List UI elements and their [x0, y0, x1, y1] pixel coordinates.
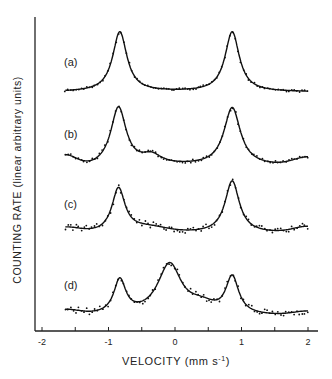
data-point	[139, 302, 141, 304]
data-point	[286, 91, 288, 93]
data-point	[157, 156, 159, 158]
data-point	[285, 231, 287, 233]
data-point	[121, 280, 123, 282]
data-point	[166, 159, 168, 161]
spectra-curves	[65, 32, 308, 314]
data-point	[214, 224, 216, 226]
data-point	[296, 90, 298, 92]
data-point	[307, 90, 309, 92]
data-point	[163, 87, 165, 89]
data-point	[128, 211, 130, 213]
data-point	[198, 160, 200, 162]
data-point	[227, 190, 229, 192]
data-point	[153, 87, 155, 89]
data-point	[152, 150, 154, 152]
data-point	[134, 301, 136, 303]
data-point	[256, 225, 258, 227]
data-point	[72, 156, 74, 158]
data-point	[221, 211, 223, 213]
data-point	[233, 275, 235, 277]
data-point	[131, 70, 133, 72]
data-point	[89, 313, 91, 315]
data-point	[174, 268, 176, 270]
data-point	[291, 226, 293, 228]
data-point	[256, 311, 258, 313]
data-point	[229, 35, 231, 37]
data-point	[101, 149, 103, 151]
data-point	[168, 226, 170, 228]
data-point	[131, 144, 133, 146]
data-point	[96, 310, 98, 312]
data-point	[267, 161, 269, 163]
data-point	[299, 225, 301, 227]
data-point	[304, 89, 306, 91]
data-point	[112, 291, 114, 293]
data-point	[245, 215, 247, 217]
spectrum-curve-d	[65, 263, 308, 314]
data-point	[154, 288, 156, 290]
data-point	[245, 73, 247, 75]
data-point	[83, 88, 85, 90]
data-point	[232, 32, 234, 34]
data-point	[291, 158, 293, 160]
spectrum-curve-b	[65, 107, 308, 163]
data-point	[123, 41, 125, 43]
data-point	[211, 154, 213, 156]
data-point	[203, 294, 205, 296]
data-point	[99, 82, 101, 84]
data-point	[222, 135, 224, 137]
data-point	[109, 130, 111, 132]
data-point	[139, 81, 141, 83]
data-point	[168, 263, 170, 265]
data-point	[230, 275, 232, 277]
data-point	[237, 285, 239, 287]
data-point	[112, 53, 114, 55]
data-point	[254, 226, 256, 228]
data-point	[304, 156, 306, 158]
data-point	[232, 179, 234, 181]
data-point	[307, 228, 309, 230]
data-point	[78, 89, 80, 91]
data-point	[153, 221, 155, 223]
data-point	[216, 147, 218, 149]
data-point	[259, 87, 261, 89]
data-point	[102, 308, 104, 310]
data-point	[86, 161, 88, 163]
data-point	[259, 313, 261, 315]
data-point	[248, 304, 250, 306]
data-point	[226, 281, 228, 283]
data-point	[142, 303, 144, 305]
data-point	[291, 89, 293, 91]
data-point	[182, 231, 184, 233]
data-point	[126, 290, 128, 292]
data-point	[307, 311, 309, 313]
data-point	[299, 91, 301, 93]
data-point	[130, 214, 132, 216]
data-point	[145, 220, 147, 222]
data-point	[280, 314, 282, 316]
data-point	[230, 184, 232, 186]
data-point	[190, 228, 192, 230]
data-point	[187, 160, 189, 162]
data-point	[198, 86, 200, 88]
data-point	[283, 315, 285, 317]
data-point	[134, 76, 136, 78]
data-point	[70, 89, 72, 91]
data-point	[102, 225, 104, 227]
spectrum-label-c: (c)	[64, 198, 77, 210]
data-point	[97, 158, 99, 160]
data-point	[200, 86, 202, 88]
data-point	[264, 228, 266, 230]
data-point	[177, 230, 179, 232]
data-point	[67, 309, 69, 311]
data-point	[253, 154, 255, 156]
data-point	[266, 230, 268, 232]
data-point	[89, 160, 91, 162]
data-point	[208, 156, 210, 158]
data-point	[198, 228, 200, 230]
data-point	[238, 197, 240, 199]
data-point	[206, 84, 208, 86]
data-point	[73, 310, 75, 312]
data-point	[274, 228, 276, 230]
data-point	[251, 305, 253, 307]
